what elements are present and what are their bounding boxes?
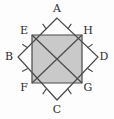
vertex-label-g: G bbox=[84, 81, 93, 94]
vertex-label-c: C bbox=[53, 103, 61, 116]
vertex-label-b: B bbox=[5, 50, 13, 63]
vertex-label-a: A bbox=[52, 2, 62, 15]
geometry-diagram-svg: ABCDEHGF bbox=[0, 0, 114, 119]
vertex-label-h: H bbox=[83, 24, 93, 37]
geometry-figure: ABCDEHGF bbox=[0, 0, 114, 119]
vertex-label-f: F bbox=[20, 81, 28, 94]
vertex-label-d: D bbox=[100, 50, 109, 63]
vertex-label-e: E bbox=[20, 24, 28, 37]
